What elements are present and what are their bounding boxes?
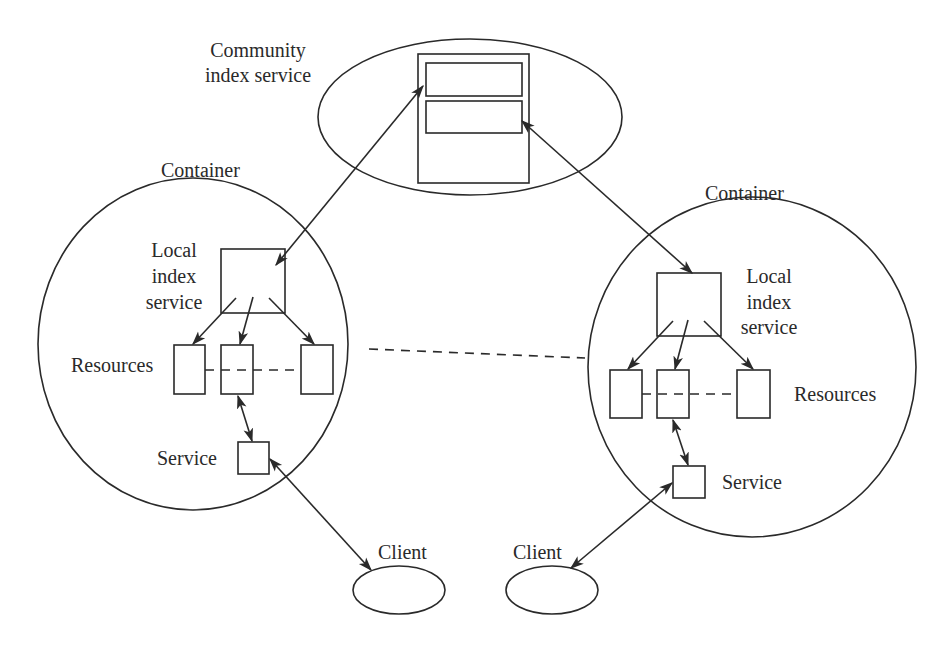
left-service-box xyxy=(238,442,269,474)
containers-dashed-link xyxy=(369,349,585,358)
community-index-box xyxy=(418,54,529,183)
right-local-index-line1: Local xyxy=(737,264,801,288)
right-service-label: Service xyxy=(722,470,782,494)
community-index-slot-1 xyxy=(426,63,522,96)
right-local-index-line3: service xyxy=(737,315,801,339)
right-index-to-resource-1 xyxy=(628,321,673,369)
right-resource-3 xyxy=(737,370,770,418)
community-index-slot-2 xyxy=(426,101,522,133)
right-community-arrow xyxy=(522,121,692,273)
client-ellipse-right xyxy=(506,566,598,614)
left-resource-3 xyxy=(301,345,333,394)
client-label-right: Client xyxy=(513,540,562,564)
right-index-to-resource-2 xyxy=(675,320,688,369)
right-local-index-box xyxy=(657,273,721,336)
left-resources-label: Resources xyxy=(71,353,153,377)
community-label-line2: index service xyxy=(198,63,318,87)
left-service-label: Service xyxy=(157,446,217,470)
left-index-to-resource-3 xyxy=(269,298,314,344)
right-resource-1 xyxy=(610,370,642,418)
right-local-index-line2: index xyxy=(737,290,801,314)
community-label-line1: Community xyxy=(198,38,318,62)
left-service-client-arrow xyxy=(270,459,371,570)
left-container-title: Container xyxy=(161,158,240,182)
client-ellipse-left xyxy=(353,566,445,614)
diagram-canvas xyxy=(0,0,950,646)
right-service-box xyxy=(673,466,705,498)
right-container-title: Container xyxy=(705,181,784,205)
left-index-to-resource-2 xyxy=(240,297,253,344)
left-resource-service-arrow xyxy=(238,396,252,441)
left-community-arrow xyxy=(276,86,423,265)
left-local-index-line3: service xyxy=(142,290,206,314)
right-service-client-arrow xyxy=(571,483,672,568)
right-resources-label: Resources xyxy=(794,382,876,406)
right-resource-service-arrow xyxy=(673,420,688,465)
left-local-index-line2: index xyxy=(142,264,206,288)
left-resource-1 xyxy=(174,345,205,394)
left-local-index-line1: Local xyxy=(142,238,206,262)
client-label-left: Client xyxy=(378,540,427,564)
